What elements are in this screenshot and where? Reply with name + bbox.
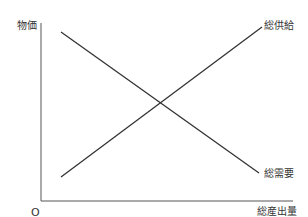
supply-curve-label: 総供給 — [264, 21, 294, 31]
y-axis-label: 物価 — [17, 21, 37, 31]
ad-as-diagram — [0, 0, 308, 217]
demand-curve-label: 総需要 — [264, 169, 294, 179]
origin-label: O — [31, 207, 40, 217]
aggregate-supply-curve — [61, 27, 262, 177]
x-axis-label: 総産出量 — [257, 207, 297, 217]
